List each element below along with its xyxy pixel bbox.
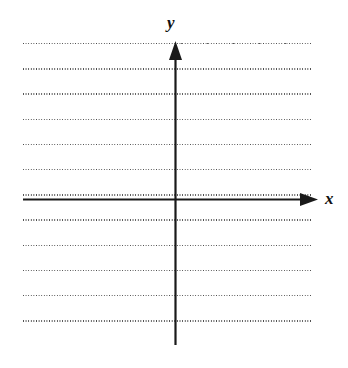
y-axis (169, 41, 182, 345)
x-axis-arrowhead-icon (300, 193, 318, 206)
coordinate-grid-figure: x y (0, 0, 348, 368)
x-axis (23, 193, 318, 206)
y-axis-label: y (167, 14, 175, 31)
y-axis-arrowhead-icon (169, 41, 182, 60)
axes-layer (0, 0, 348, 368)
x-axis-label: x (325, 190, 334, 207)
